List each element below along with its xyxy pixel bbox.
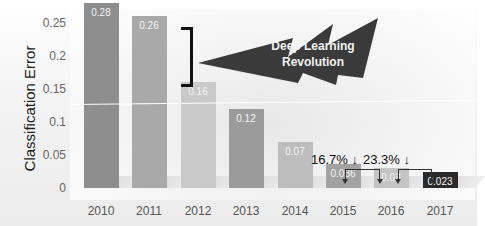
y-tick: 0 [32, 181, 66, 195]
bar-value-label: 0.12 [229, 113, 264, 124]
bar-value-label: 0.28 [84, 7, 119, 18]
bar-2010: 0.28 [84, 3, 119, 188]
percent-drop-2015-2016: 16.7% ↓ [311, 152, 358, 167]
bar-2012: 0.16 [181, 82, 216, 188]
x-tick-2015: 2015 [323, 204, 363, 218]
bar-value-label: 0.16 [181, 86, 216, 97]
bar-value-label: 0.07 [278, 146, 313, 157]
x-tick-2016: 2016 [371, 204, 411, 218]
x-tick-2012: 2012 [178, 204, 218, 218]
annotation-line-1: Deep Learning [258, 38, 368, 54]
bar-value-label: 0.26 [132, 20, 167, 31]
x-tick-2011: 2011 [129, 204, 169, 218]
annotation-deep-learning: Deep Learning Revolution [258, 38, 368, 70]
x-tick-2017: 2017 [420, 204, 460, 218]
y-tick: 0.1 [32, 115, 66, 129]
y-tick: 0.2 [32, 49, 66, 63]
arrow-2016-2017-icon [398, 169, 432, 179]
percent-drop-2016-2017: 23.3% ↓ [363, 152, 410, 167]
x-tick-2013: 2013 [226, 204, 266, 218]
bar-2014: 0.07 [278, 142, 313, 188]
y-tick: 0.25 [32, 16, 66, 30]
y-tick: 0.15 [32, 82, 66, 96]
bracket-icon [181, 27, 193, 87]
x-tick-2014: 2014 [275, 204, 315, 218]
bar-2013: 0.12 [229, 109, 264, 188]
arrow-2015-2016-icon [345, 169, 380, 179]
y-tick: 0.05 [32, 148, 66, 162]
annotation-line-2: Revolution [258, 54, 368, 70]
x-tick-2010: 2010 [81, 204, 121, 218]
